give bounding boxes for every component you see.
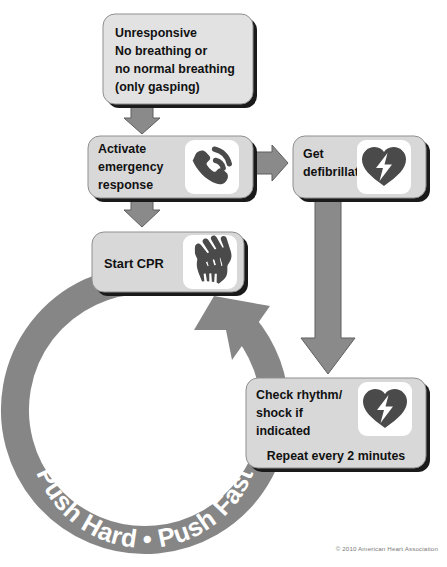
activate-line-3: response — [98, 178, 153, 192]
start-cpr-label: Start CPR — [104, 256, 164, 271]
cpr-algorithm-diagram: Push Hard • Push Fast — [0, 0, 447, 567]
unresponsive-box: Unresponsive No breathing or no normal b… — [103, 14, 257, 108]
check-rhythm-box: Check rhythm/ shock if indicated Repeat … — [246, 378, 430, 472]
check-rhythm-footer: Repeat every 2 minutes — [267, 449, 406, 463]
unresponsive-line-2: No breathing or — [115, 44, 207, 58]
unresponsive-line-1: Unresponsive — [115, 26, 197, 40]
start-cpr-box: Start CPR — [92, 232, 248, 296]
activate-line-2: emergency — [98, 160, 164, 174]
copyright-notice: © 2010 American Heart Association — [336, 545, 439, 552]
defibrillator-line-1: Get — [303, 147, 324, 161]
activate-line-1: Activate — [98, 142, 146, 156]
check-rhythm-line-2: shock if — [256, 406, 304, 420]
check-rhythm-line-1: Check rhythm/ — [256, 388, 343, 402]
activate-emergency-response-box: Activate emergency response — [88, 136, 257, 202]
unresponsive-line-4: (only gasping) — [115, 80, 200, 94]
check-rhythm-line-3: indicated — [256, 424, 310, 438]
unresponsive-line-3: no normal breathing — [115, 62, 235, 76]
get-defibrillator-box: Get defibrillator — [293, 136, 430, 202]
phone-icon-plate — [185, 140, 239, 194]
